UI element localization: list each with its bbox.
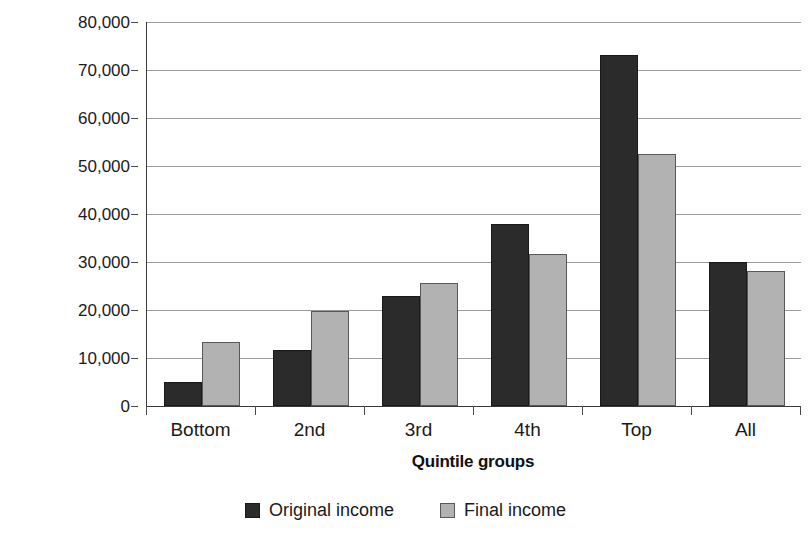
y-axis-tick-mark [131, 70, 138, 71]
x-axis-tick-mark [146, 406, 147, 415]
x-axis-tick-label: Bottom [146, 417, 255, 445]
bar [382, 296, 420, 406]
x-axis-title: Quintile groups [146, 452, 800, 472]
bar [420, 283, 458, 406]
bar-group [256, 22, 365, 406]
x-axis-tick-label: 4th [473, 417, 582, 445]
x-axis-tick-marks [146, 406, 800, 415]
chart-legend: Original incomeFinal income [0, 500, 811, 521]
x-axis-tick-mark [364, 406, 365, 415]
bar-group [474, 22, 583, 406]
x-axis-tick-mark [473, 406, 474, 415]
y-axis-tick-mark [131, 118, 138, 119]
bar [747, 271, 785, 406]
y-axis-tick-label-group: 010,00020,00030,00040,00050,00060,00070,… [28, 10, 138, 410]
y-axis-tick-mark [131, 406, 138, 407]
plot-area [146, 22, 801, 407]
bar [164, 382, 202, 406]
y-axis-tick-label: 50,000 [26, 158, 130, 175]
bar [709, 262, 747, 406]
bar-group [365, 22, 474, 406]
y-axis-tick-label: 20,000 [26, 302, 130, 319]
bar [529, 254, 567, 406]
x-axis-tick-label: All [691, 417, 800, 445]
y-axis-tick-mark [131, 310, 138, 311]
x-axis-tick-label: Top [582, 417, 691, 445]
y-axis-tick-label: 10,000 [26, 350, 130, 367]
y-axis-tick-mark [131, 214, 138, 215]
y-axis-tick-label: 40,000 [26, 206, 130, 223]
x-axis-tick-label: 3rd [364, 417, 473, 445]
y-axis-tick-label: 0 [26, 398, 130, 415]
y-axis-tick-mark [131, 166, 138, 167]
legend-label: Original income [269, 500, 394, 521]
y-axis-tick-mark [131, 262, 138, 263]
legend-item: Final income [440, 500, 566, 521]
legend-item: Original income [245, 500, 394, 521]
bar-group [583, 22, 692, 406]
y-axis-tick-mark [131, 22, 138, 23]
bars-layer [147, 22, 801, 406]
bar [491, 224, 529, 406]
y-axis-tick-label: 80,000 [26, 14, 130, 31]
bar [202, 342, 240, 406]
bar-group [147, 22, 256, 406]
y-axis-tick-mark [131, 358, 138, 359]
bar-group [692, 22, 801, 406]
bar [600, 55, 638, 406]
x-axis-tick-label: 2nd [255, 417, 364, 445]
x-axis-tick-mark [691, 406, 692, 415]
x-axis-tick-label-group: Bottom2nd3rd4thTopAll [146, 417, 800, 445]
legend-label: Final income [464, 500, 566, 521]
light-swatch [440, 503, 455, 518]
y-axis-tick-label: 60,000 [26, 110, 130, 127]
y-axis-tick-label: 30,000 [26, 254, 130, 271]
x-axis-tick-mark [582, 406, 583, 415]
bar [638, 154, 676, 406]
bar-chart-figure: £ per year 010,00020,00030,00040,00050,0… [0, 0, 811, 557]
x-axis-tick-mark [255, 406, 256, 415]
bar [273, 350, 311, 406]
x-axis-tick-mark [800, 406, 801, 415]
bar [311, 311, 349, 406]
y-axis-tick-label: 70,000 [26, 62, 130, 79]
dark-swatch [245, 503, 260, 518]
